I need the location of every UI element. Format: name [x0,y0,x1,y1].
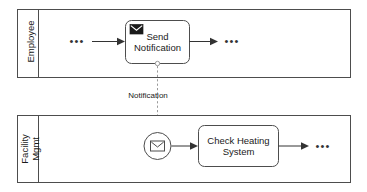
lane-label-facility-mgmt: FacilityMgmt [20,122,42,176]
lane-label-facility-mgmt-line2: Mgmt [30,137,41,161]
task-label-send-notification: SendNotification [125,31,190,53]
task-label-send-notification-line1: Send [146,31,168,42]
task-label-send-notification-line2: Notification [134,42,181,53]
task-label-check-heating-system: Check HeatingSystem [198,135,279,157]
continuation-dots-employee-right: ••• [224,35,239,47]
task-label-check-heating-system-line2: System [223,146,255,157]
message-flow-origin-marker [155,61,159,65]
pool-facility-mgmt [18,116,351,183]
task-label-check-heating-system-line1: Check Heating [207,135,269,146]
lane-label-employee: Employee [26,17,37,65]
continuation-dots-employee-left: ••• [69,35,84,47]
message-flow-label-notification: Notification [108,91,188,100]
continuation-dots-facility-right: ••• [315,140,330,152]
bpmn-diagram-canvas: ••• ••• ••• [0,0,367,192]
lane-label-facility-mgmt-line1: Facility [19,134,30,164]
